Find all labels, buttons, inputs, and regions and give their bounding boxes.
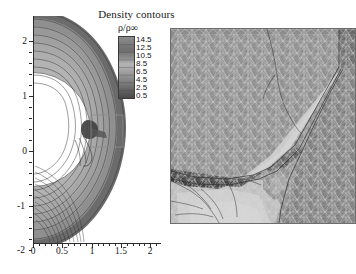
figure-title: Density contours — [84, 8, 189, 20]
y-tick-label: -1 — [3, 201, 25, 211]
x-tick-label: 1.5 — [109, 246, 133, 256]
y-tick-label: 0 — [5, 146, 27, 156]
y-tick-label: 1 — [5, 91, 27, 101]
colorbar-label: ρ/ρ∞ — [118, 22, 162, 33]
y-tick-group — [33, 16, 34, 243]
colorbar — [118, 36, 135, 99]
x-tick-label: 0 — [21, 246, 45, 256]
mesh-detail-svg — [171, 29, 355, 223]
y-tick-label: 2 — [5, 36, 27, 46]
colorbar-tick-labels: 14.5 12.5 10.5 8.5 6.5 4.5 2.5 0.5 — [136, 34, 162, 98]
x-axis — [33, 243, 161, 244]
x-tick-label: 0.5 — [50, 246, 74, 256]
colorbar-gradient — [119, 37, 134, 98]
zoom-detail-panel — [170, 28, 356, 224]
colorbar-tick: 0.5 — [136, 92, 147, 100]
x-tick-label: 2 — [138, 246, 162, 256]
x-tick-label: 1 — [80, 246, 104, 256]
figure-canvas: 2 1 0 -1 -2 0 0.5 1 1.5 2 Density contou… — [0, 0, 356, 274]
